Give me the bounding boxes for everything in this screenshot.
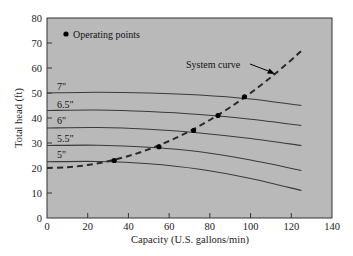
operating-point	[156, 144, 161, 149]
x-tick-label: 40	[123, 221, 134, 232]
x-tick-label: 60	[164, 221, 175, 232]
x-tick-label: 20	[82, 221, 93, 232]
operating-point	[191, 128, 196, 133]
y-tick-label: 50	[32, 88, 43, 99]
operating-point	[242, 94, 247, 99]
curve-label-5-5in: 5.5"	[57, 133, 74, 144]
y-tick-label: 0	[37, 213, 42, 224]
y-tick-label: 20	[32, 163, 43, 174]
curve-label-7in: 7"	[57, 81, 66, 92]
x-tick-label: 140	[324, 221, 340, 232]
y-tick-label: 30	[32, 138, 43, 149]
x-axis-title: Capacity (U.S. gallons/min)	[131, 234, 249, 246]
y-tick-label: 40	[32, 113, 43, 124]
x-tick-label: 100	[243, 221, 259, 232]
x-tick-label: 80	[205, 221, 216, 232]
curve-label-6in: 6"	[57, 115, 66, 126]
y-tick-label: 80	[32, 13, 43, 24]
pump-curve-chart: 01020304050607080 020406080100120140 Cap…	[0, 0, 353, 256]
curve-label-5in: 5"	[57, 149, 66, 160]
y-tick-label: 70	[32, 38, 43, 49]
system-curve-label: System curve	[186, 59, 241, 70]
y-tick-label: 60	[32, 63, 43, 74]
x-tick-label: 120	[283, 221, 299, 232]
curve-label-6-5in: 6.5"	[57, 99, 74, 110]
operating-point	[112, 158, 117, 163]
y-tick-label: 10	[32, 188, 43, 199]
operating-point	[215, 113, 220, 118]
legend-marker-icon	[63, 31, 68, 36]
legend-label: Operating points	[73, 29, 140, 40]
x-tick-label: 0	[44, 221, 49, 232]
y-axis-title: Total head (ft)	[13, 88, 25, 148]
